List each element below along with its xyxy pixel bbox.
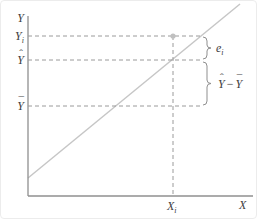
label-mean-y: ¯Y <box>1 99 24 113</box>
label-fitted-wrap: ˆY <box>17 53 24 67</box>
bar-accent: ¯ <box>237 73 243 84</box>
label-observed-sub: i <box>22 36 24 45</box>
diagram-canvas <box>1 1 257 219</box>
label-observed-base: Y <box>15 29 22 43</box>
label-fitted-y: ˆY <box>1 53 24 67</box>
label-x-point-sub: i <box>174 206 176 215</box>
regression-diagram: Y Yi ˆY ¯Y ei ˆY−¯Y Xi X <box>0 0 257 219</box>
explained-brace <box>203 62 211 105</box>
label-explained: ˆY−¯Y <box>218 77 242 91</box>
hat-accent: ˆ <box>220 72 224 83</box>
label-residual-sub: i <box>221 48 223 57</box>
x-axis-label: X <box>239 198 246 212</box>
label-observed-y: Yi <box>1 29 24 48</box>
label-residual-base: e <box>216 41 221 55</box>
y-axis-label-text: Y <box>17 11 24 25</box>
x-axis-label-text: X <box>239 198 246 212</box>
label-x-point: Xi <box>167 199 177 218</box>
data-point <box>170 33 175 38</box>
regression-line <box>28 4 240 178</box>
label-residual: ei <box>216 41 224 60</box>
bar-accent: ¯ <box>19 95 25 106</box>
label-mean-wrap: ¯Y <box>17 99 24 113</box>
residual-brace <box>203 37 211 59</box>
label-explained-first-wrap: ˆY <box>218 77 225 91</box>
label-explained-second-wrap: ¯Y <box>235 77 242 91</box>
label-x-point-base: X <box>167 199 174 213</box>
hat-accent: ˆ <box>19 48 23 59</box>
y-axis-label: Y <box>1 11 24 25</box>
minus-sign: − <box>227 77 234 91</box>
